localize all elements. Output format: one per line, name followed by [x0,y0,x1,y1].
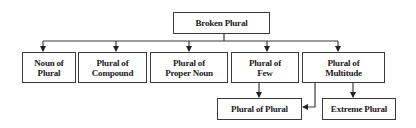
node-plural-of-compound: Plural of Compound [78,52,147,83]
node-noun-of-plural: Noun of Plural [22,52,76,83]
node-plural-of-plural: Plural of Plural [217,98,302,120]
diagram-canvas: Broken Plural Noun of Plural Plural of C… [0,0,416,128]
node-plural-of-few: Plural of Few [231,52,299,83]
node-extreme-plural: Extreme Plural [322,98,396,120]
node-plural-of-multitude: Plural of Multitude [302,52,385,83]
node-plural-of-proper-noun: Plural of Proper Noun [150,52,228,83]
node-broken-plural: Broken Plural [173,12,270,34]
